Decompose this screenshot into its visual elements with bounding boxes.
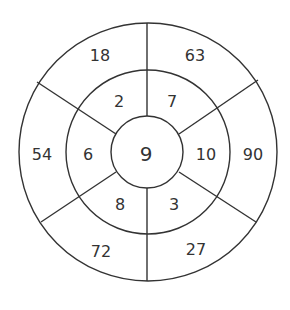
inner-bottom-right-value: 3 bbox=[169, 195, 179, 214]
inner-bottom-left-value: 8 bbox=[115, 195, 125, 214]
outer-left-value: 54 bbox=[32, 145, 52, 164]
inner-top-left-value: 2 bbox=[114, 92, 124, 111]
spoke-lower-right bbox=[179, 172, 256, 222]
outer-right-value: 90 bbox=[243, 145, 263, 164]
outer-bottom-right-value: 27 bbox=[186, 240, 206, 259]
outer-top-right-value: 63 bbox=[185, 46, 205, 65]
center-value: 9 bbox=[140, 142, 153, 166]
spoke-upper-right bbox=[179, 80, 258, 134]
outer-top-left-value: 18 bbox=[90, 46, 110, 65]
number-wheel-diagram: 9 2 7 10 3 8 6 18 63 90 27 72 54 bbox=[0, 0, 290, 310]
spoke-lower-left bbox=[41, 172, 116, 222]
outer-bottom-left-value: 72 bbox=[91, 242, 111, 261]
inner-left-value: 6 bbox=[83, 145, 93, 164]
inner-right-value: 10 bbox=[196, 145, 216, 164]
inner-top-right-value: 7 bbox=[167, 92, 177, 111]
spoke-upper-left bbox=[37, 82, 116, 134]
